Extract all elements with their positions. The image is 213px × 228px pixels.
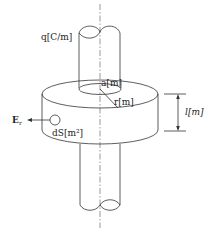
gauss-cylinder-diagram: q[C/m] a[m] r[m] l[m] E r dS[m²] [0,0,213,228]
field-vector [27,118,50,122]
length-dimension [164,94,186,131]
inner-radius-label: a[m] [101,78,122,88]
field-subscript: r [19,119,22,126]
field-label: E [12,115,19,125]
surface-element-label: dS[m²] [52,128,83,138]
length-label: l[m] [185,107,204,117]
radius-label: r[m] [114,97,134,107]
line-charge-label: q[C/m] [41,32,72,42]
surface-element-circle [50,115,60,125]
